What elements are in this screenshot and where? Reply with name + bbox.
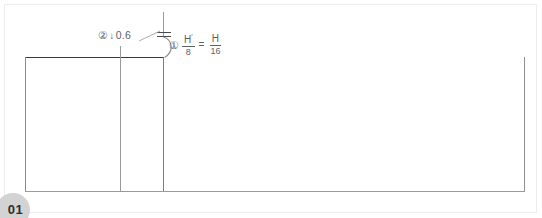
equals-sign: = xyxy=(198,40,206,50)
down-arrow-icon: ↓ xyxy=(108,30,115,41)
leader-line-depth xyxy=(139,31,160,41)
prime-mark: ′ xyxy=(191,33,192,40)
fraction-right-numerator: H xyxy=(210,34,221,46)
fraction-left: H′ 8 xyxy=(182,33,195,57)
fraction-right: H 16 xyxy=(208,34,222,56)
drawing-page: ②↓0.6 ① H′ 8 = H 16 01 xyxy=(0,0,542,218)
fraction-left-numerator: H′ xyxy=(182,33,195,47)
annotation-ratio-marker: ① xyxy=(169,40,179,51)
technical-drawing-canvas xyxy=(0,0,542,218)
annotation-ratio: ① H′ 8 = H 16 xyxy=(169,33,222,57)
annotation-depth-marker: ② xyxy=(98,29,108,41)
page-number-label: 01 xyxy=(3,202,23,218)
annotation-depth-value: 0.6 xyxy=(116,29,132,41)
fraction-right-denominator: 16 xyxy=(208,46,222,56)
annotation-depth: ②↓0.6 xyxy=(98,30,131,41)
fraction-left-denominator: 8 xyxy=(184,47,193,57)
